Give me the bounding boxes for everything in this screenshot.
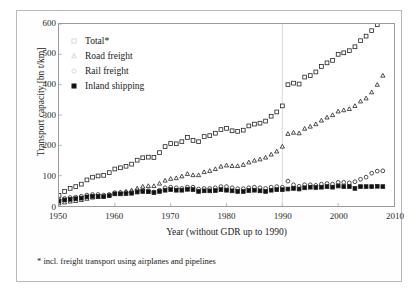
- data-point: [303, 126, 307, 130]
- data-point: [353, 104, 357, 108]
- data-point: [141, 190, 145, 194]
- data-point: [130, 191, 134, 195]
- data-point: [208, 169, 212, 173]
- data-point: [102, 173, 106, 177]
- data-point: [135, 190, 139, 194]
- data-point: [364, 185, 368, 189]
- data-point: [191, 173, 195, 177]
- data-point: [113, 167, 117, 171]
- data-point: [135, 158, 139, 162]
- data-point: [325, 185, 329, 189]
- data-point: [359, 185, 363, 189]
- data-point: [353, 45, 357, 49]
- data-point: [174, 142, 178, 146]
- y-axis-tick-labels: 0100200300400500600: [22, 23, 56, 207]
- data-point: [375, 83, 379, 87]
- x-axis-title: Year (without GDR up to 1990): [58, 227, 395, 237]
- data-point: [158, 190, 162, 194]
- data-point: [158, 151, 162, 155]
- data-point: [275, 149, 279, 153]
- data-point: [152, 191, 156, 195]
- data-point: [297, 82, 301, 86]
- data-point: [91, 175, 95, 179]
- data-point: [79, 196, 83, 200]
- data-point: [197, 140, 201, 144]
- data-point: [202, 135, 206, 139]
- x-axis-tick-labels: 1950196019701980199020002010: [58, 212, 395, 224]
- data-point: [113, 192, 117, 196]
- data-point: [225, 185, 229, 189]
- data-point: [213, 167, 217, 171]
- data-point: [375, 184, 379, 188]
- data-point: [152, 156, 156, 160]
- data-point: [241, 190, 245, 194]
- data-point: [275, 188, 279, 192]
- data-point: [319, 118, 323, 122]
- data-point: [197, 190, 201, 194]
- x-tick-1960: 1960: [92, 212, 136, 221]
- data-point: [247, 160, 251, 164]
- data-point: [331, 113, 335, 117]
- data-point: [342, 180, 346, 184]
- x-tick-1950: 1950: [36, 212, 80, 221]
- data-point: [286, 132, 290, 136]
- data-point: [68, 197, 72, 201]
- data-point: [275, 110, 279, 114]
- data-point: [68, 187, 72, 191]
- legend-label: Road freight: [81, 51, 133, 61]
- data-point: [236, 130, 240, 134]
- data-point: [163, 178, 167, 182]
- data-point: [370, 185, 374, 189]
- data-point: [303, 186, 307, 190]
- data-point: [347, 185, 351, 189]
- data-point: [119, 192, 123, 196]
- data-point: [292, 183, 296, 187]
- data-point: [253, 188, 257, 192]
- data-point: [124, 192, 128, 196]
- data-point: [141, 184, 145, 188]
- data-point: [252, 158, 256, 162]
- data-point: [141, 156, 145, 160]
- data-point: [325, 61, 329, 65]
- data-point: [59, 194, 61, 198]
- data-point: [342, 108, 346, 112]
- data-point: [381, 169, 385, 173]
- data-point: [225, 188, 229, 192]
- data-point: [364, 96, 368, 100]
- data-point: [336, 180, 340, 184]
- data-point: [325, 115, 329, 119]
- data-point: [224, 163, 228, 167]
- data-point: [230, 189, 234, 193]
- data-point: [269, 188, 273, 192]
- data-point: [180, 188, 184, 192]
- data-point: [191, 139, 195, 143]
- y-tick-500: 500: [26, 49, 56, 58]
- data-point: [202, 170, 206, 174]
- data-point: [119, 166, 123, 170]
- data-point: [236, 190, 240, 194]
- open-square-glyph: [72, 38, 76, 42]
- data-point: [269, 152, 273, 156]
- data-point: [320, 185, 324, 189]
- data-point: [63, 198, 67, 202]
- data-point: [292, 81, 296, 85]
- data-point: [353, 187, 357, 191]
- data-point: [163, 145, 167, 149]
- open-triangle-glyph: [72, 53, 77, 57]
- data-point: [96, 194, 100, 198]
- data-point: [91, 194, 95, 198]
- y-tick-300: 300: [26, 111, 56, 120]
- data-point: [85, 178, 89, 182]
- legend-item-3: Inland shipping: [67, 78, 192, 93]
- x-tick-1970: 1970: [148, 212, 192, 221]
- data-point: [197, 173, 201, 177]
- data-point: [146, 155, 150, 159]
- data-point: [174, 188, 178, 192]
- open-circle-glyph: [72, 68, 76, 72]
- data-point: [297, 187, 301, 191]
- data-point: [286, 187, 290, 191]
- data-point: [169, 177, 173, 181]
- data-point: [63, 190, 67, 194]
- data-point: [286, 83, 290, 87]
- data-point: [186, 136, 190, 140]
